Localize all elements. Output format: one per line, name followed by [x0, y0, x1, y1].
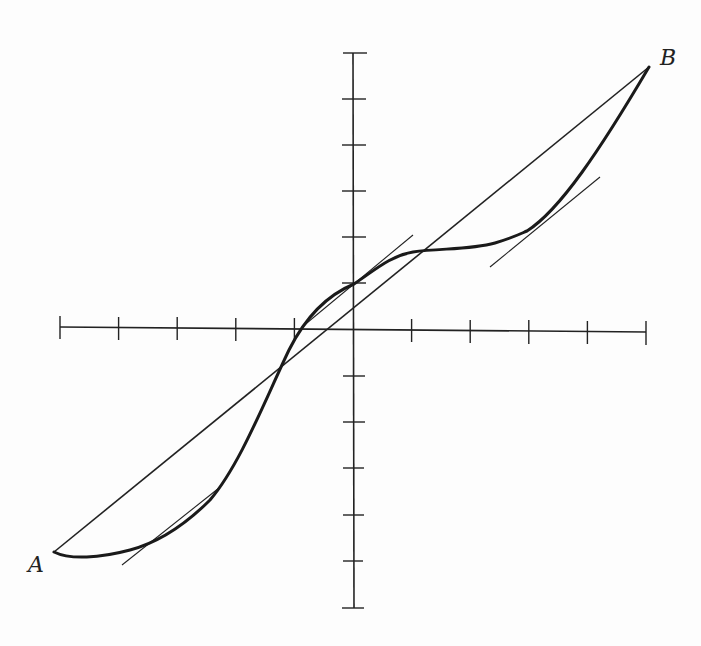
- point-a-label: A: [26, 552, 44, 577]
- chord-ab: [54, 67, 649, 552]
- tangent-line-upper: [490, 177, 600, 267]
- y-axis: [353, 53, 354, 608]
- tangent-line-lower: [122, 488, 219, 565]
- tangent-lines: [122, 177, 600, 565]
- point-b-label: B: [659, 45, 676, 70]
- axes: [60, 53, 646, 608]
- mvt-diagram: A B: [0, 0, 701, 646]
